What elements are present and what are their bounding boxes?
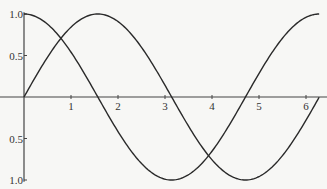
x-tick-label: 3 — [162, 100, 168, 112]
y-tick-label: 1.0 — [9, 174, 23, 186]
x-tick-label: 1 — [68, 100, 74, 112]
chart: 1234561.00.50.51.0 — [0, 0, 327, 189]
x-tick-label: 6 — [303, 100, 309, 112]
x-tick-label: 2 — [115, 100, 121, 112]
plot-area: 1234561.00.50.51.0 — [0, 0, 327, 189]
y-tick-label: 0.5 — [9, 133, 23, 145]
x-tick-label: 4 — [209, 100, 215, 112]
y-tick-label: 0.5 — [9, 50, 23, 62]
y-tick-label: 1.0 — [9, 8, 23, 20]
x-tick-label: 5 — [256, 100, 262, 112]
